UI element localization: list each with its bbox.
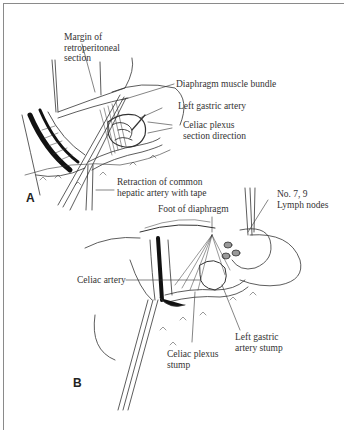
label-foot-of-diaphragm: Foot of diaphragm — [158, 204, 229, 215]
label-left-gastric-artery-stump: Left gastric artery stump — [235, 332, 283, 353]
label-margin-retroperitoneal: Margin of retroperitoneal section — [64, 32, 120, 64]
label-retraction-hepatic-artery: Retraction of common hepatic artery with… — [117, 177, 206, 198]
label-diaphragm-muscle-bundle: Diaphragm muscle bundle — [176, 79, 276, 90]
label-left-gastric-artery: Left gastric artery — [178, 101, 246, 112]
panel-label-a: A — [26, 191, 35, 205]
panel-b-drawing — [85, 188, 301, 410]
panel-label-b: B — [73, 376, 82, 390]
label-celiac-artery: Celiac artery — [77, 275, 126, 286]
label-lymph-nodes: No. 7, 9 Lymph nodes — [277, 189, 328, 210]
label-celiac-plexus-section-direction: Celiac plexus section direction — [183, 120, 246, 141]
label-celiac-plexus-stump: Celiac plexus stump — [167, 349, 218, 370]
